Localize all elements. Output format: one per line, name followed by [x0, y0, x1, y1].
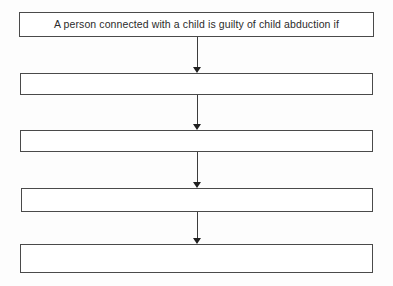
flow-node-empty[interactable]: [21, 188, 373, 212]
flowchart-canvas: A person connected with a child is guilt…: [0, 0, 393, 286]
flow-arrow: [193, 212, 202, 244]
flow-arrow: [193, 152, 202, 188]
arrow-line: [197, 212, 198, 238]
flow-arrow: [193, 37, 202, 73]
arrow-line: [197, 37, 198, 67]
flow-node-empty[interactable]: [20, 244, 373, 273]
arrow-line: [197, 95, 198, 124]
arrow-line: [197, 152, 198, 182]
flow-node-label: A person connected with a child is guilt…: [48, 18, 345, 30]
flow-node-empty[interactable]: [20, 73, 373, 95]
flow-arrow: [193, 95, 202, 130]
flow-node[interactable]: A person connected with a child is guilt…: [19, 12, 374, 37]
flow-node-empty[interactable]: [20, 130, 373, 152]
